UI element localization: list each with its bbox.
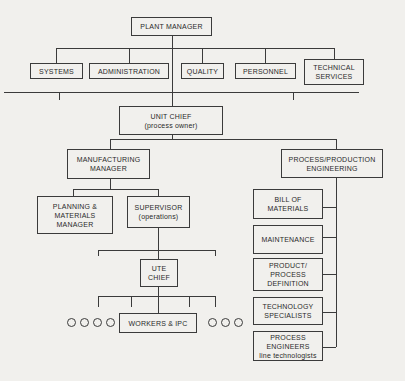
node-technical-services: TECHNICAL SERVICES [304,59,364,85]
worker-circle [93,318,102,327]
node-workers-ipc: WORKERS & IPC [119,313,197,333]
node-label: PERSONNEL [243,67,288,76]
node-label: MANUFACTURING [77,155,141,164]
node-sublabel: (process owner) [144,121,197,130]
node-unit-chief: UNIT CHIEF (process owner) [119,106,223,135]
node-bill-of-materials: BILL OF MATERIALS [253,189,323,219]
worker-circle [208,318,217,327]
node-label: MATERIALS [268,204,309,213]
node-label: PROCESS [270,333,306,342]
node-label: UNIT CHIEF [150,112,191,121]
node-maintenance: MAINTENANCE [253,225,323,254]
worker-circle [106,318,115,327]
node-process-engineers: PROCESS ENGINEERS line technologists [253,331,323,361]
node-label: MANAGER [90,164,127,173]
worker-circles-left [67,318,115,327]
node-label: PLANT MANAGER [140,22,202,31]
node-label: ENGINEERING [306,164,357,173]
node-label: ENGINEERS [266,342,309,351]
node-label: WORKERS & IPC [129,319,188,328]
node-label: PROCESS [270,270,306,279]
node-administration: ADMINISTRATION [89,63,169,79]
node-label: PROCESS/PRODUCTION [289,155,376,164]
org-chart-figure: PLANT MANAGER SYSTEMS ADMINISTRATION QUA… [0,0,405,381]
node-systems: SYSTEMS [30,63,83,79]
node-plant-manager: PLANT MANAGER [131,17,212,36]
node-label: SERVICES [316,72,353,81]
node-label: DEFINITION [267,279,309,288]
node-quality: QUALITY [181,63,224,79]
node-technology-specialists: TECHNOLOGY SPECIALISTS [253,297,323,325]
node-label: ADMINISTRATION [98,67,160,76]
node-label: PLANNING & [53,202,97,211]
node-ute-chief: UTE CHIEF [140,259,178,287]
node-label: BILL OF [274,195,301,204]
node-manufacturing-manager: MANUFACTURING MANAGER [67,149,150,179]
worker-circle [67,318,76,327]
node-label: MAINTENANCE [261,235,314,244]
node-label: QUALITY [187,67,218,76]
node-label: TECHNOLOGY [262,302,313,311]
node-label: SUPERVISOR [135,203,183,212]
node-product-process-definition: PRODUCT/ PROCESS DEFINITION [253,258,323,291]
worker-circle [221,318,230,327]
node-label: PRODUCT/ [269,261,307,270]
worker-circle [234,318,243,327]
node-supervisor: SUPERVISOR (operations) [127,196,190,228]
node-label: UTE [152,264,167,273]
node-label: SPECIALISTS [264,311,311,320]
worker-circle [80,318,89,327]
node-label: MANAGER [57,220,94,229]
node-sublabel: line technologists [259,351,316,360]
node-process-production-engineering: PROCESS/PRODUCTION ENGINEERING [281,149,383,178]
node-label: MATERIALS [55,211,96,220]
worker-circles-right [208,318,243,327]
node-label: SYSTEMS [39,67,74,76]
node-sublabel: (operations) [139,212,179,221]
node-planning-materials-manager: PLANNING & MATERIALS MANAGER [37,196,113,234]
node-personnel: PERSONNEL [235,63,296,79]
connector-lines [0,0,405,381]
node-label: CHIEF [148,273,170,282]
node-label: TECHNICAL [313,63,354,72]
